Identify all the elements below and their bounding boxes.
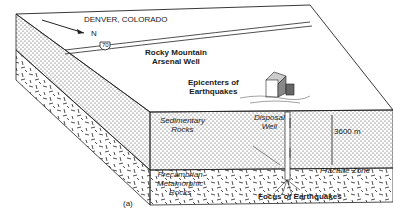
highway-shield-label: 70 xyxy=(102,41,109,50)
fracture-zone-label: Fracture Zone xyxy=(320,166,370,175)
sedimentary-label: Sedimentary Rocks xyxy=(160,116,205,134)
disposal-well-shaft xyxy=(285,112,290,180)
precambrian-label: Precambrian Metamorphic Rocks xyxy=(157,170,203,197)
panel-label: (a) xyxy=(123,199,133,208)
depth-label: 3600 m xyxy=(334,127,361,136)
location-label: DENVER, COLORADO xyxy=(84,15,168,24)
north-label: N xyxy=(91,29,97,38)
epicenters-label: Epicenters of Earthquakes xyxy=(188,78,239,96)
focus-label: Focus of Earthquakes xyxy=(258,192,342,201)
disposal-well-label: Disposal Well xyxy=(254,113,285,131)
well-label: Rocky Mountain Arsenal Well xyxy=(145,48,207,66)
